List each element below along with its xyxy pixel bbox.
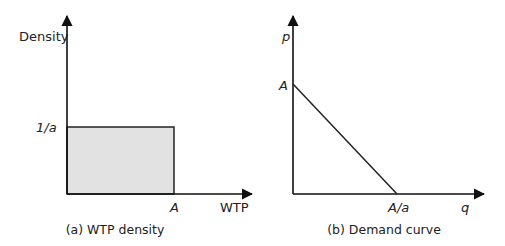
panel-wtp-density: Density 1/a A WTP (a) WTP density [19, 16, 252, 237]
y-axis-label: p [281, 29, 290, 44]
panel-demand-curve: p A A/a q (b) Demand curve [278, 16, 484, 237]
demand-line [293, 84, 397, 194]
x-tick-label: A/a [387, 200, 409, 215]
y-axis-label: Density [19, 29, 69, 44]
uniform-density-region [67, 127, 174, 194]
x-axis-label: WTP [220, 200, 249, 215]
y-tick-label: 1/a [36, 120, 57, 135]
y-tick-label: A [278, 78, 288, 93]
caption: (b) Demand curve [327, 222, 441, 237]
x-axis-label: q [461, 200, 469, 215]
x-tick-label: A [169, 200, 179, 215]
figure: Density 1/a A WTP (a) WTP density p A A/… [0, 0, 505, 246]
caption: (a) WTP density [66, 222, 165, 237]
